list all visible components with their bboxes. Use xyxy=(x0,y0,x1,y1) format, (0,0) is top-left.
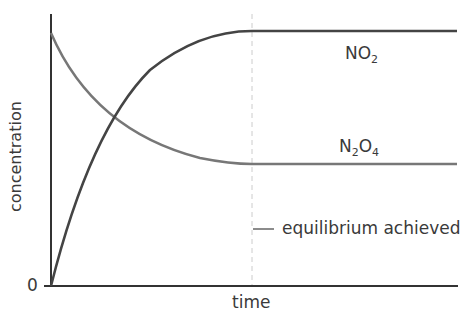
no2-curve xyxy=(51,31,457,286)
equilibrium-label: equilibrium achieved xyxy=(282,220,460,237)
y-axis-label: concentration xyxy=(8,101,24,212)
chart-plot xyxy=(0,0,471,328)
n2o4-curve xyxy=(51,33,457,164)
y-zero-tick-label: 0 xyxy=(27,277,38,294)
x-axis-label: time xyxy=(232,294,270,311)
n2o4-label: N2O4 xyxy=(339,138,379,158)
no2-label: NO2 xyxy=(345,45,378,65)
concentration-time-chart: concentration 0 time NO2 N2O4 equilibriu… xyxy=(0,0,471,328)
